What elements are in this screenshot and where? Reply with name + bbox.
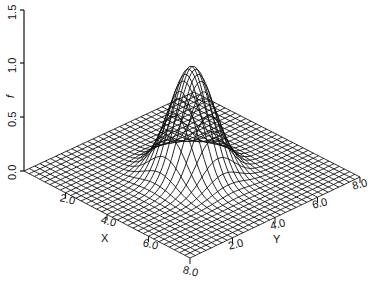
z-tick-0.0: 0.0 [6,165,18,180]
z-axis [20,10,24,171]
x-axis-label: X [101,232,108,244]
z-axis-label: f [4,95,16,98]
z-tick-1.0: 1.0 [6,58,18,73]
z-tick-0.5: 0.5 [6,112,18,127]
z-tick-1.5: 1.5 [6,5,18,20]
surface-plot [0,0,372,283]
y-axis-label: Y [273,233,280,245]
surface-mesh [24,66,360,258]
